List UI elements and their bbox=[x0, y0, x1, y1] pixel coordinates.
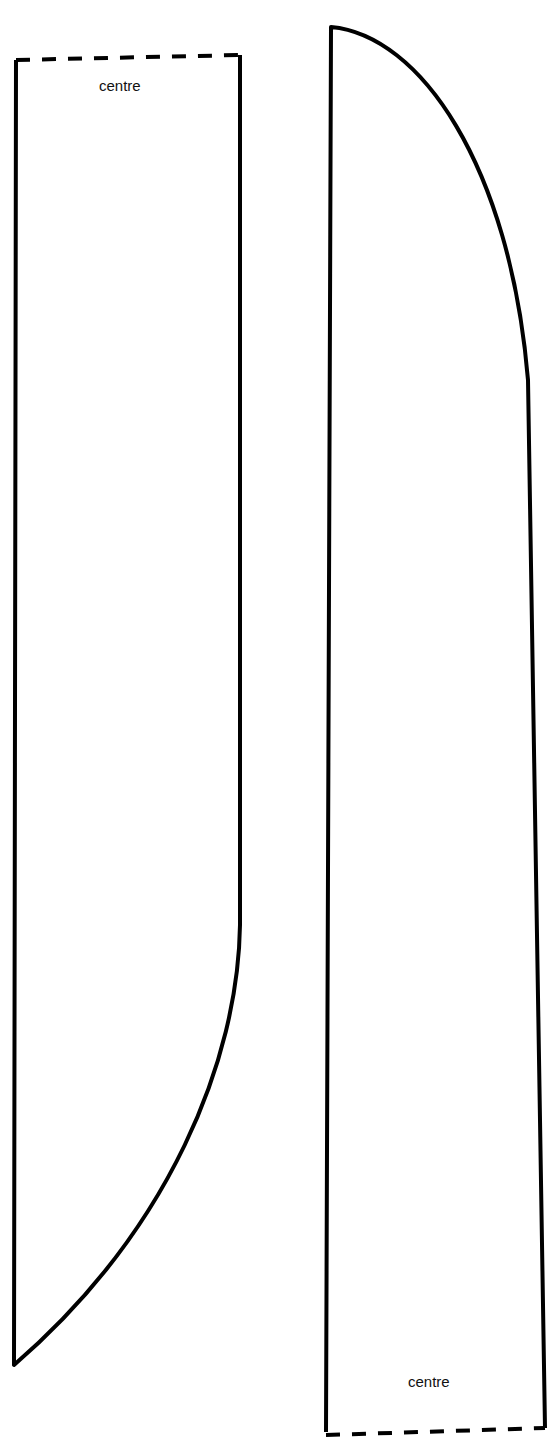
right-pattern-piece bbox=[326, 27, 545, 1435]
left-piece-dashed-centre-edge bbox=[16, 55, 240, 60]
left-piece-centre-label: centre bbox=[99, 77, 141, 94]
right-piece-dashed-centre-edge bbox=[326, 1428, 545, 1435]
left-piece-outline bbox=[14, 55, 240, 1365]
right-piece-outline bbox=[326, 27, 545, 1432]
right-piece-centre-label: centre bbox=[408, 1373, 450, 1390]
pattern-diagram bbox=[0, 0, 550, 1447]
left-pattern-piece bbox=[14, 55, 240, 1365]
